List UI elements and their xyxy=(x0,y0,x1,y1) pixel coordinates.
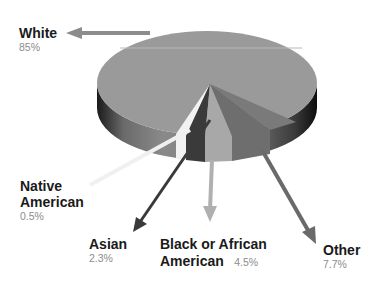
label-native-name-1: Native xyxy=(20,178,84,194)
label-native-name-2: American xyxy=(20,194,84,210)
label-native-american: Native American 0.5% xyxy=(20,178,84,223)
label-other-pct: 7.7% xyxy=(323,258,360,271)
arrow-black xyxy=(203,206,217,222)
label-black-name-1: Black or African xyxy=(160,236,267,252)
label-black-name-2: American xyxy=(160,253,224,269)
label-asian-pct: 2.3% xyxy=(89,252,127,265)
label-white: White 85% xyxy=(19,25,57,54)
arrow-asian xyxy=(133,217,147,232)
label-native-pct: 0.5% xyxy=(20,210,84,223)
label-white-pct: 85% xyxy=(19,41,57,54)
label-black-pct: 4.5% xyxy=(234,256,258,268)
label-asian: Asian 2.3% xyxy=(89,236,127,265)
label-asian-name: Asian xyxy=(89,236,127,252)
label-black: Black or African American 4.5% xyxy=(160,236,267,270)
label-white-name: White xyxy=(19,25,57,41)
label-other: Other 7.7% xyxy=(323,242,360,271)
arrow-white xyxy=(66,27,82,39)
label-other-name: Other xyxy=(323,242,360,258)
